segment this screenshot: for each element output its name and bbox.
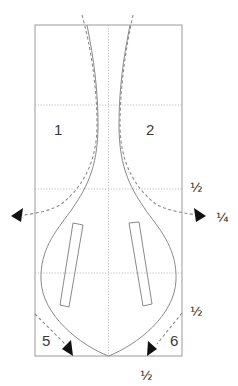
panel-label-6: 6 xyxy=(170,333,178,348)
panel-label-2: 2 xyxy=(146,122,154,137)
fraction-right-arrow: ¼ xyxy=(216,211,229,224)
bottom-right-fold-arrow-icon xyxy=(147,341,157,356)
right-fold-arrow-icon xyxy=(194,208,206,222)
fraction-right-lower: ½ xyxy=(190,305,203,318)
fraction-right-upper: ½ xyxy=(190,181,203,194)
right-slot xyxy=(129,222,152,306)
panel-label-1: 1 xyxy=(54,122,62,137)
grid-lines xyxy=(35,25,183,356)
left-slot xyxy=(60,223,83,307)
fraction-bottom: ½ xyxy=(140,369,153,382)
panel-label-5: 5 xyxy=(42,333,50,348)
left-fold-arrow-icon xyxy=(11,208,23,222)
